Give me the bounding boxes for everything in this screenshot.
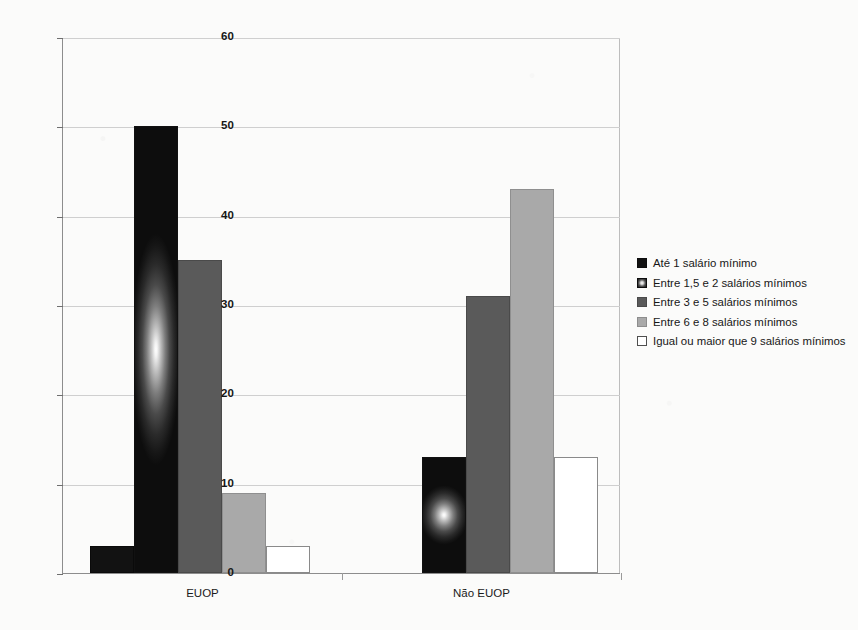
legend-item[interactable]: Igual ou maior que 9 salários mínimos bbox=[637, 334, 852, 349]
y-tick-label: 0 bbox=[194, 566, 234, 578]
legend-item[interactable]: Entre 3 e 5 salários mínimos bbox=[637, 295, 852, 310]
bar-5-group-1 bbox=[266, 546, 310, 573]
bar-4-group-1 bbox=[222, 493, 266, 573]
plot-area: EUOPNão EUOP bbox=[62, 38, 620, 574]
legend-swatch-icon bbox=[637, 336, 647, 346]
y-tick-label: 60 bbox=[194, 30, 234, 42]
legend-swatch-icon bbox=[637, 278, 647, 288]
legend-item[interactable]: Até 1 salário mínimo bbox=[637, 256, 852, 271]
legend-swatch-icon bbox=[637, 317, 647, 327]
y-tick-label: 40 bbox=[194, 209, 234, 221]
legend-item-label: Igual ou maior que 9 salários mínimos bbox=[653, 334, 852, 349]
y-tick-mark bbox=[57, 574, 63, 575]
bar-1-group-1 bbox=[90, 546, 134, 573]
legend-item-label: Até 1 salário mínimo bbox=[653, 256, 852, 271]
chart-figure: EUOPNão EUOP 0102030405060 Até 1 salário… bbox=[0, 0, 858, 630]
legend-item-label: Entre 6 e 8 salários mínimos bbox=[653, 315, 852, 330]
bars-layer bbox=[63, 38, 620, 573]
bar-3-group-2 bbox=[466, 296, 510, 573]
legend-item[interactable]: Entre 1,5 e 2 salários mínimos bbox=[637, 276, 852, 291]
y-tick-label: 50 bbox=[194, 119, 234, 131]
x-tick-mark bbox=[621, 573, 622, 580]
x-tick-mark bbox=[342, 573, 343, 580]
bar-2-group-2 bbox=[422, 457, 466, 573]
legend-swatch-icon bbox=[637, 258, 647, 268]
y-tick-label: 10 bbox=[194, 477, 234, 489]
y-tick-label: 20 bbox=[194, 387, 234, 399]
legend-swatch-icon bbox=[637, 297, 647, 307]
chart-legend: Até 1 salário mínimoEntre 1,5 e 2 salári… bbox=[637, 256, 852, 354]
bar-2-group-1 bbox=[134, 126, 178, 573]
y-tick-label: 30 bbox=[194, 298, 234, 310]
legend-item[interactable]: Entre 6 e 8 salários mínimos bbox=[637, 315, 852, 330]
x-category-label: EUOP bbox=[63, 587, 342, 599]
bar-5-group-2 bbox=[554, 457, 598, 573]
bar-4-group-2 bbox=[510, 189, 554, 573]
legend-item-label: Entre 1,5 e 2 salários mínimos bbox=[653, 276, 852, 291]
x-category-label: Não EUOP bbox=[342, 587, 621, 599]
legend-item-label: Entre 3 e 5 salários mínimos bbox=[653, 295, 852, 310]
